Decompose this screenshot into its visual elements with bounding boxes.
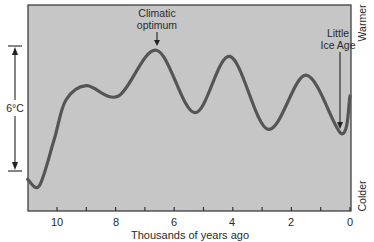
scale-label: 6°C	[6, 102, 24, 114]
arrow-down-icon	[12, 162, 18, 170]
x-tick-4: 4	[229, 216, 235, 228]
annotation-climatic-optimum-line2: optimum	[137, 19, 178, 31]
x-tick-10: 10	[51, 216, 63, 228]
warmer-label: Warmer	[356, 4, 368, 41]
annotation-climatic-optimum-line1: Climatic	[138, 7, 175, 19]
x-axis-label: Thousands of years ago	[131, 229, 249, 241]
x-tick-6: 6	[171, 216, 177, 228]
arrow-up-icon	[12, 47, 18, 55]
colder-label: Colder	[356, 180, 368, 211]
x-tick-0: 0	[347, 216, 353, 228]
annotation-little-ice-age-line2: Ice Age	[320, 39, 355, 51]
x-tick-2: 2	[288, 216, 294, 228]
annotation-little-ice-age-line1: Little	[327, 27, 349, 39]
climate-chart: 10 8 6 4 2 0 Thousands of years ago Clim…	[0, 0, 374, 242]
x-tick-8: 8	[113, 216, 119, 228]
